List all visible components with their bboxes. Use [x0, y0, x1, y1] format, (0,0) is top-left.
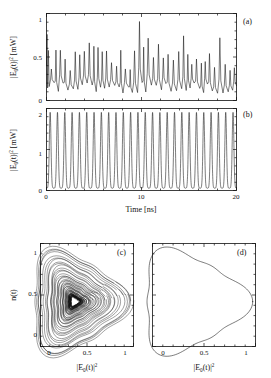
panel-b-xticks: 0 10 20: [44, 193, 240, 201]
panel-b-frame: [47, 109, 237, 191]
panel-a-label: (a): [243, 17, 252, 26]
panel-d: 0 0.5 1 |E0(t)|2 (d): [147, 244, 255, 374]
panel-b-ytick-1: 1: [39, 150, 43, 158]
panel-b-ylabel-post: [mW]: [9, 129, 18, 150]
panel-c-xlabel: |E0(t)|2: [77, 362, 98, 373]
panel-c-xlabel-sup: 2: [95, 362, 98, 368]
panel-a-yticks: 0 0.5 1: [33, 16, 42, 105]
panel-d-xlabel: |E0(t)|2: [194, 362, 215, 373]
panel-a-curve-group: [47, 22, 237, 94]
panel-a-ylabel-mid: (t)|: [9, 60, 18, 69]
panel-d-xtick-1: 0.5: [200, 349, 209, 357]
panel-c-ylabel: n(t): [9, 289, 18, 301]
panel-a-ytick-1: 0.5: [33, 54, 42, 62]
panel-a-curve: [47, 22, 237, 94]
panel-c-xtick-1: 0.5: [83, 349, 92, 357]
panel-b-ytick-2: 2: [39, 111, 43, 119]
panel-d-xtick-2b: 1: [244, 349, 248, 357]
panel-b-yticks: 0 1 2: [39, 111, 43, 195]
panel-a: 0 0.5 1 |E0(t)|2 [mW] (a): [8, 14, 252, 106]
figure-panel-group: 0 0.5 1 |E0(t)|2 [mW] (a) 0 1 2 0 10 20 …: [0, 0, 271, 378]
panel-c-ytick-1: 0.5: [28, 290, 37, 298]
panel-b-xtick-2: 20: [233, 193, 241, 201]
panel-d-label: (d): [237, 248, 247, 257]
panel-c-xtick-2: 1: [123, 349, 127, 357]
panel-c-xlabel-mid: (t)|: [86, 363, 95, 372]
svg-text:|E0(t)|2 [mW]: |E0(t)|2 [mW]: [8, 36, 19, 78]
panel-b-xlabel: Time [ns]: [125, 205, 156, 214]
panel-d-frame: [153, 244, 256, 347]
panel-d-curve: [147, 247, 253, 356]
panel-a-ylabel-post: [mW]: [9, 36, 18, 57]
panel-b-xtick-1: 10: [138, 193, 146, 201]
panel-c-xtick-0: 0: [47, 349, 51, 357]
panel-c: 0 0.5 1 0 0.5 1 n(t) |E0(t)|2 (c): [9, 244, 134, 374]
panel-d-xtick-0: 0: [161, 349, 165, 357]
svg-text:|E0(t)|2 [mW]: |E0(t)|2 [mW]: [8, 129, 19, 171]
panel-b-ytick-0: 0: [39, 187, 43, 195]
panel-c-curve-group: [35, 246, 134, 358]
panel-b-curve: [47, 112, 237, 188]
panel-a-ytick-2: 1: [39, 16, 43, 24]
panel-c-ytick-0: 0: [34, 331, 38, 339]
panel-d-xlabel-mid: (t)|: [203, 363, 212, 372]
panel-a-ylabel: |E0(t)|2 [mW]: [8, 36, 19, 78]
panel-b-xtick-0: 0: [44, 193, 48, 201]
panel-d-curve-group: [147, 247, 253, 356]
panel-b-curve-group: [47, 112, 237, 188]
panel-c-ylabel-text: n(t): [9, 289, 18, 301]
panel-c-label: (c): [117, 248, 126, 257]
panel-a-ytick-0: 0: [39, 97, 43, 105]
panel-c-ytick-2: 1: [34, 249, 38, 257]
panel-b: 0 1 2 0 10 20 Time [ns] |E0(t)|2 [mW] (b…: [8, 109, 253, 215]
panel-d-xticks: 0 0.5 1: [161, 349, 248, 357]
panel-d-xlabel-sup: 2: [212, 362, 215, 368]
panel-c-yticks: 0 0.5 1: [28, 249, 37, 339]
panel-b-label: (b): [243, 110, 253, 119]
panel-b-ylabel-mid: (t)|: [9, 153, 18, 162]
panel-b-ylabel: |E0(t)|2 [mW]: [8, 129, 19, 171]
